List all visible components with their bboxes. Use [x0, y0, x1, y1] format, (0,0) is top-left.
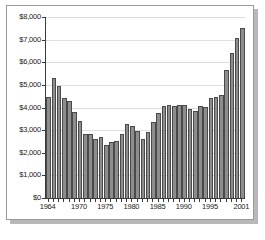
bar [193, 111, 198, 198]
bar [88, 134, 93, 198]
x-axis-tickmark [231, 198, 232, 202]
x-axis-tick-label: 1990 [176, 203, 192, 211]
y-axis-tick-label: $0 [33, 194, 41, 202]
bar [209, 98, 214, 198]
x-axis-tickmark [63, 198, 64, 202]
plot-area [45, 17, 245, 199]
bar [78, 121, 83, 198]
x-axis-tickmark [226, 198, 227, 202]
bar [62, 98, 67, 198]
x-axis-tickmark [116, 198, 117, 202]
chart-figure: $8,000$7,000$6,000$5,000$4,000$3,000$2,0… [6, 5, 254, 220]
x-axis-tickmark [173, 198, 174, 202]
bar [172, 106, 177, 198]
y-axis-tick-label: $6,000 [19, 59, 41, 67]
y-axis-tick-label: $7,000 [19, 36, 41, 44]
bar [198, 106, 203, 198]
x-axis-tickmark [90, 198, 91, 202]
bar [67, 101, 72, 198]
x-axis-tick-label: 1985 [150, 203, 166, 211]
bar [104, 145, 109, 198]
bar [141, 139, 146, 198]
y-axis-tick-label: $8,000 [19, 13, 41, 21]
x-axis-tick-label: 1964 [40, 203, 56, 211]
x-axis-tickmark [121, 198, 122, 202]
bar [188, 109, 193, 198]
bar [57, 86, 62, 198]
x-axis-tick-label: 2001 [233, 203, 249, 211]
x-axis-tickmark [147, 198, 148, 202]
x-axis-tickmark [142, 198, 143, 202]
bar [125, 124, 130, 198]
x-axis-tick-label: 1975 [97, 203, 113, 211]
y-axis-tick-label: $1,000 [19, 172, 41, 180]
bar [214, 97, 219, 198]
x-axis-tickmark [168, 198, 169, 202]
x-axis-tickmark [95, 198, 96, 202]
bar [130, 126, 135, 198]
bar [162, 106, 167, 198]
bar [224, 70, 229, 199]
y-axis-tick-label: $5,000 [19, 81, 41, 89]
bar [203, 107, 208, 198]
bar [235, 38, 240, 198]
bar [72, 112, 77, 198]
x-axis-tick-label: 1995 [202, 203, 218, 211]
bar [146, 132, 151, 198]
bar [219, 95, 224, 198]
bar [83, 134, 88, 198]
bar [156, 113, 161, 198]
x-axis-tickmark [58, 198, 59, 202]
bar [93, 139, 98, 198]
y-axis-tick-label: $2,000 [19, 149, 41, 157]
bar [109, 142, 114, 198]
bar [135, 131, 140, 198]
x-axis-tick-label: 1970 [71, 203, 87, 211]
bar [182, 105, 187, 198]
x-axis-tickmark [199, 198, 200, 202]
y-axis-tick-label: $4,000 [19, 104, 41, 112]
x-axis-tickmark [220, 198, 221, 202]
bar-series [46, 17, 245, 198]
x-axis-labels: 19641970197519801985199019952001 [45, 203, 244, 215]
y-axis-tick-label: $3,000 [19, 126, 41, 134]
bar [46, 97, 51, 198]
bar [167, 105, 172, 198]
bar [177, 105, 182, 198]
bar [120, 134, 125, 198]
bar [151, 122, 156, 198]
y-axis-labels: $8,000$7,000$6,000$5,000$4,000$3,000$2,0… [7, 6, 45, 219]
bar [99, 137, 104, 198]
bar [240, 28, 245, 198]
x-axis-tickmark [194, 198, 195, 202]
bar [230, 53, 235, 198]
x-axis-tickmark [69, 198, 70, 202]
bar [52, 78, 57, 198]
bar [114, 141, 119, 198]
chart-plot-wrapper: $8,000$7,000$6,000$5,000$4,000$3,000$2,0… [7, 6, 253, 219]
x-axis-tick-label: 1980 [123, 203, 139, 211]
